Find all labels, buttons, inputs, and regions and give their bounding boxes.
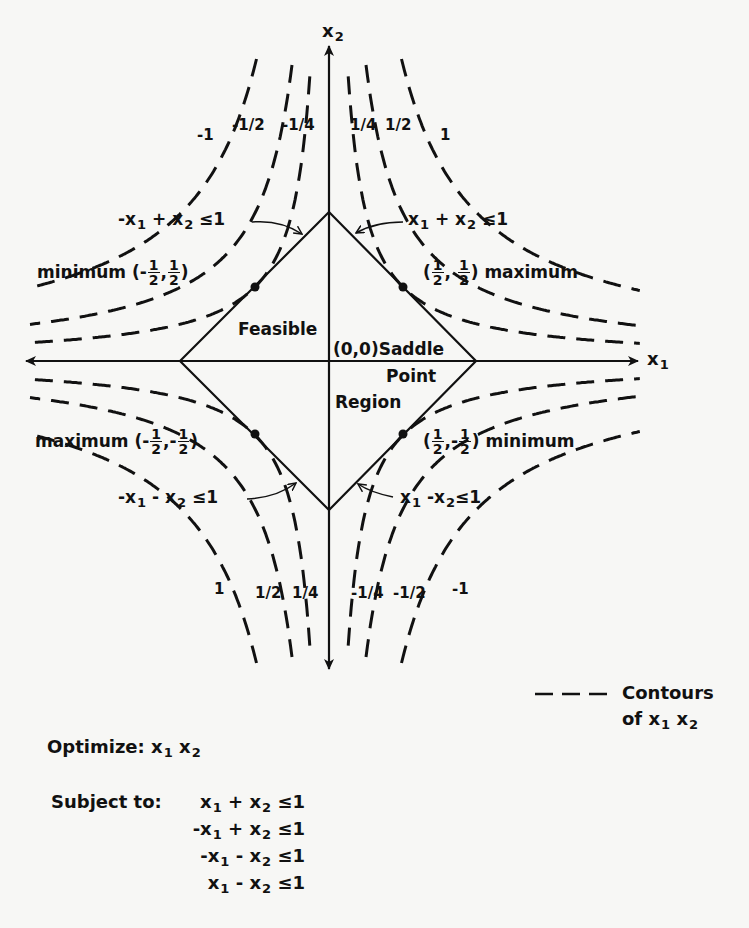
constraint-row: x1 + x2 ≤1 [170,793,305,820]
contour-label-tl-1: -1 [197,128,214,143]
constraint-row: x1 - x2 ≤1 [170,874,305,901]
constraint-label-sw: -x1 - x2 ≤1 [118,489,218,509]
extremum-label-nw: minimum (-12,12) [37,258,189,287]
contour-label-br-3: -1 [452,582,469,597]
contour-label-br-1: -1/4 [351,586,384,601]
contour-curve [30,379,310,645]
leader-arrow-se [358,484,393,497]
region-label: Region [335,394,401,411]
optimize-statement: Optimize: x1 x2 [47,738,201,759]
legend-label: Contours [622,684,714,702]
x1-axis-label: x1 [647,350,669,371]
contour-label-br-2: -1/2 [393,586,426,601]
extremum-label-ne: (12, 12) maximum [423,258,578,287]
feasible-label: Feasible [238,321,317,338]
constraint-list: x1 + x2 ≤1 -x1 + x2 ≤1 -x1 - x2 ≤1 x1 - … [170,793,310,901]
extremum-dot-ne [399,283,408,292]
constraint-row: -x1 - x2 ≤1 [170,847,305,874]
contour-curve [30,59,257,288]
contour-label-bl-2: 1/2 [255,586,281,601]
constraint-row: -x1 + x2 ≤1 [170,820,305,847]
extremum-dot-se [399,430,408,439]
diagram-canvas [0,0,749,928]
extremum-dot-nw [251,283,260,292]
constraint-label-se: x1 -x2≤1 [400,489,481,509]
contour-curve [402,59,640,291]
contour-label-tl-3: -1/4 [282,118,315,133]
contour-label-tr-3: 1 [440,128,450,143]
subject-to-label: Subject to: [51,793,162,811]
leader-arrow-ne [356,222,403,233]
leader-arrow-nw [252,222,302,234]
contour-label-bl-1: 1 [214,582,224,597]
constraint-label-ne: x1 + x2 ≤1 [408,211,508,231]
extremum-label-se: (12,-12) minimum [423,427,575,456]
legend-label-2: of x1 x2 [622,710,698,731]
extremum-dot-sw [251,430,260,439]
contour-curve [30,434,257,663]
x2-axis-label: x2 [322,22,344,43]
contour-label-tl-2: -1/2 [232,118,265,133]
contour-label-bl-3: 1/4 [292,586,318,601]
contour-label-tr-2: 1/2 [385,118,411,133]
constraint-label-nw: -x1 + x2 ≤1 [118,211,225,231]
extremum-label-sw: maximum (-12,-12) [35,427,198,456]
contour-curve [402,432,640,664]
contour-curve [348,379,640,646]
saddle-point-label: (0,0)Saddle [333,341,444,358]
saddle-point-label-2: Point [386,368,436,385]
contour-label-tr-1: 1/4 [350,118,376,133]
